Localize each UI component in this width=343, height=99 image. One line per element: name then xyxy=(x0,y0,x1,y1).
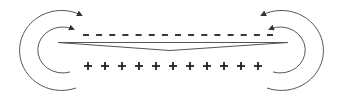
negative-charge-icon xyxy=(96,34,102,36)
negative-charge-icon xyxy=(122,34,128,36)
negative-charge-icon xyxy=(109,34,115,36)
negative-charge-icon xyxy=(149,34,155,36)
negative-charge-icon xyxy=(241,34,247,36)
positive-charge-icon xyxy=(203,62,211,70)
positive-charge-icon xyxy=(237,62,245,70)
negative-charge-icon xyxy=(188,34,194,36)
negative-charge-icon xyxy=(254,34,260,36)
negative-charge-icon xyxy=(83,34,89,36)
right-inner-curved-arrow-icon xyxy=(270,27,305,73)
positive-charge-icon xyxy=(186,62,194,70)
left-outer-curved-arrow-icon xyxy=(20,10,81,90)
positive-charge-icon xyxy=(220,62,228,70)
positive-charge-icon xyxy=(84,62,92,70)
positive-charge-icon xyxy=(169,62,177,70)
right-outer-curved-arrow-icon xyxy=(262,10,323,90)
positive-charge-icon xyxy=(152,62,160,70)
wedge-membrane xyxy=(58,43,288,51)
positive-charge-icon xyxy=(101,62,109,70)
negative-charge-icon xyxy=(201,34,207,36)
negative-charge-icon xyxy=(162,34,168,36)
negative-charges-row xyxy=(83,34,273,36)
positive-charge-icon xyxy=(254,62,262,70)
charge-diagram xyxy=(0,0,343,99)
negative-charge-icon xyxy=(136,34,142,36)
left-inner-curved-arrow-icon xyxy=(38,27,73,73)
positive-charge-icon xyxy=(118,62,126,70)
negative-charge-icon xyxy=(214,34,220,36)
negative-charge-icon xyxy=(267,34,273,36)
positive-charges-row xyxy=(84,62,262,70)
negative-charge-icon xyxy=(175,34,181,36)
positive-charge-icon xyxy=(135,62,143,70)
negative-charge-icon xyxy=(228,34,234,36)
